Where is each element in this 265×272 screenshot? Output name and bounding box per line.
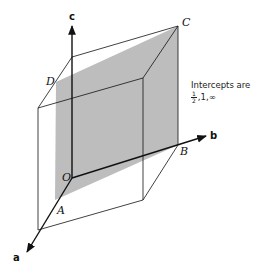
intercepts-note-line2: 1 2 ,1,∞ bbox=[191, 91, 250, 104]
fraction-denominator: 2 bbox=[191, 98, 197, 104]
a-axis bbox=[27, 178, 72, 252]
point-label-C: C bbox=[182, 16, 191, 29]
b-axis-label: b bbox=[210, 130, 217, 141]
c-axis-label: c bbox=[69, 11, 75, 22]
fraction-one-half: 1 2 bbox=[191, 91, 197, 104]
a-axis-label: a bbox=[13, 252, 20, 263]
point-label-origin: O bbox=[62, 171, 71, 184]
intercepts-note: Intercepts are 1 2 ,1,∞ bbox=[191, 79, 250, 104]
intercepts-values: ,1,∞ bbox=[198, 92, 216, 102]
crystal-plane-diagram: c b a O A B C D bbox=[0, 0, 265, 272]
point-label-A: A bbox=[56, 204, 65, 217]
point-label-D: D bbox=[45, 75, 55, 88]
intercepts-note-line1: Intercepts are bbox=[191, 79, 250, 91]
point-label-B: B bbox=[179, 145, 188, 158]
